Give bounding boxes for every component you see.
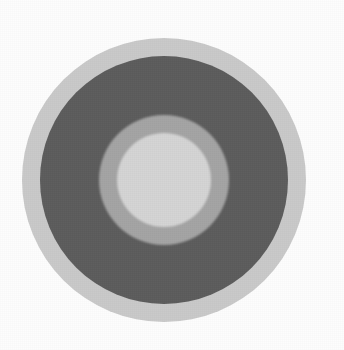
concentric-circles-figure	[0, 0, 344, 350]
inner-disc-shape	[117, 133, 211, 227]
